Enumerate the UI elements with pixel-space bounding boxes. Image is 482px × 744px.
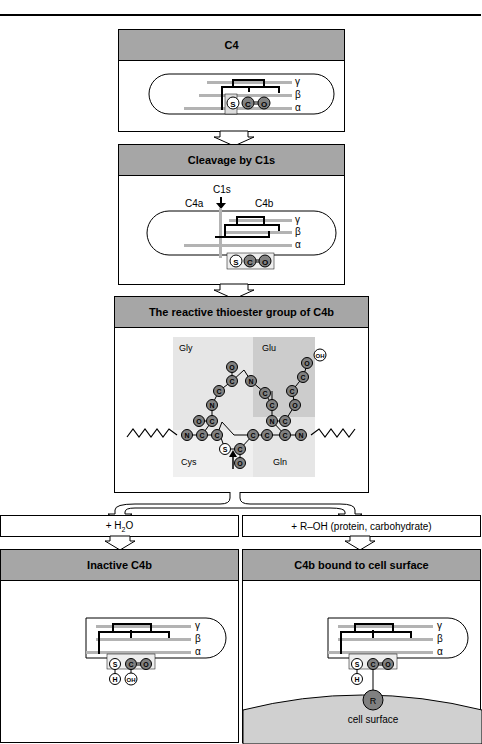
svg-text:C: C: [209, 418, 214, 425]
svg-text:S: S: [113, 661, 118, 668]
svg-text:α: α: [295, 239, 301, 250]
branch-roh-label: + R–OH (protein, carbohydrate): [291, 521, 431, 532]
svg-text:C: C: [128, 661, 133, 668]
branch-water-box: + H2O: [0, 515, 239, 537]
region-gly: Gly: [179, 343, 193, 353]
svg-text:C: C: [247, 258, 253, 267]
svg-text:β: β: [437, 633, 443, 644]
svg-text:γ: γ: [437, 620, 442, 631]
svg-text:N: N: [209, 402, 214, 409]
panel-inactive-c4b: Inactive C4b S C O H OH γ β α: [0, 549, 239, 743]
panel-bound-c4b: C4b bound to cell surface S C O H R cell…: [242, 549, 481, 743]
svg-text:O: O: [229, 364, 235, 371]
svg-text:C: C: [282, 432, 287, 439]
svg-text:H: H: [112, 676, 117, 683]
svg-text:O: O: [385, 661, 391, 668]
svg-text:O: O: [262, 258, 268, 267]
svg-text:C: C: [245, 100, 251, 109]
svg-text:S: S: [223, 446, 228, 453]
svg-text:γ: γ: [195, 620, 200, 631]
svg-text:S: S: [233, 258, 239, 267]
c4a-label: C4a: [185, 198, 204, 209]
svg-text:O: O: [143, 661, 149, 668]
chain-beta-label: β: [295, 89, 301, 100]
svg-text:C: C: [370, 661, 375, 668]
r-group-label: R: [370, 696, 377, 706]
thioester-structure: Gly Glu Cys Gln N C C O C N C C O: [115, 297, 370, 494]
svg-text:O: O: [196, 418, 202, 425]
atom-S: S: [230, 100, 236, 109]
panel-thioester: The reactive thioester group of C4b Gly …: [114, 296, 369, 493]
chain-gamma-label: γ: [295, 76, 300, 87]
svg-text:C: C: [214, 432, 219, 439]
svg-text:N: N: [184, 432, 189, 439]
svg-text:O: O: [261, 100, 267, 109]
svg-text:β: β: [295, 226, 301, 237]
svg-text:C: C: [237, 446, 242, 453]
svg-text:O: O: [292, 402, 298, 409]
svg-text:C: C: [262, 390, 267, 397]
svg-text:O: O: [237, 460, 243, 467]
region-glu: Glu: [262, 343, 276, 353]
svg-text:C: C: [199, 432, 204, 439]
svg-text:α: α: [437, 646, 443, 657]
c4b-label: C4b: [255, 198, 274, 209]
svg-text:S: S: [355, 661, 360, 668]
svg-text:C: C: [282, 418, 287, 425]
cleavage-diagram: C1s C4a C4b S C O γ β α: [119, 145, 346, 286]
svg-text:OH: OH: [316, 353, 325, 359]
svg-text:H: H: [354, 676, 359, 683]
panel-c4: C4 S C O γ β α: [118, 29, 345, 132]
svg-text:C: C: [264, 432, 269, 439]
svg-text:N: N: [248, 378, 253, 385]
chain-alpha-label: α: [295, 102, 301, 113]
svg-text:N: N: [298, 432, 303, 439]
svg-text:C: C: [229, 378, 234, 385]
c4-molecule-diagram: S C O γ β α: [119, 30, 346, 133]
svg-text:C: C: [216, 388, 221, 395]
svg-text:C: C: [300, 374, 305, 381]
svg-text:γ: γ: [295, 214, 300, 225]
region-gln: Gln: [273, 457, 287, 467]
branch-roh-box: + R–OH (protein, carbohydrate): [242, 515, 481, 537]
inactive-c4b-diagram: S C O H OH γ β α: [1, 550, 240, 744]
cell-surface-label: cell surface: [348, 714, 399, 725]
svg-text:β: β: [195, 633, 201, 644]
bound-c4b-diagram: S C O H R cell surface γ β α: [243, 550, 482, 744]
c1s-label: C1s: [213, 184, 231, 195]
branch-water-label: + H2O: [106, 520, 134, 533]
svg-text:C: C: [250, 432, 255, 439]
svg-text:N: N: [269, 418, 274, 425]
region-cys: Cys: [181, 457, 197, 467]
panel-cleavage: Cleavage by C1s C1s C4a C4b S C O γ β α: [118, 144, 345, 285]
top-rule: [0, 14, 481, 16]
svg-text:OH: OH: [127, 677, 136, 683]
svg-text:C: C: [269, 402, 274, 409]
svg-text:O: O: [304, 360, 310, 367]
svg-text:α: α: [195, 646, 201, 657]
svg-text:C: C: [289, 388, 294, 395]
